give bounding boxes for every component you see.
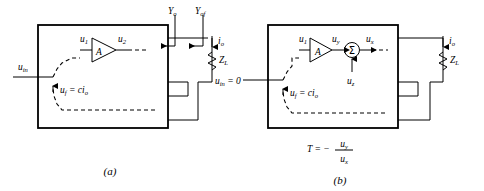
admittance-yof-label-a: Yof: [195, 6, 207, 17]
admittance-yo-label-a: Yo: [168, 6, 177, 17]
amplifier-gain-label-b: A: [314, 47, 321, 57]
panel-caption-b: (b): [334, 174, 347, 187]
feedback-label-a: uf = cio: [60, 85, 89, 96]
amp-input-label-a: u1: [80, 34, 88, 45]
panel-b: Σ uin = 0 u1 uy A ux uz uf = cio: [215, 25, 459, 187]
output-current-label-b: io: [449, 36, 456, 47]
load-impedance-label-a: ZL: [219, 55, 228, 66]
formula-denominator-b: ux: [340, 154, 348, 165]
summing-node-label-b: Σ: [349, 45, 355, 56]
formula-numerator-b: uy: [340, 139, 348, 150]
feedback-label-b: uf = cio: [290, 88, 319, 99]
amplifier-triangle-b: [310, 38, 332, 62]
forward-dashed-path-b: [283, 58, 299, 80]
circuit-diagram-svg: uin u1 u2 A uf = cio Yo Yof io ZL (a) Σ: [0, 0, 484, 191]
summer-inject-label-b: uz: [347, 76, 355, 87]
output-current-label-a: io: [218, 36, 225, 47]
panel-a: uin u1 u2 A uf = cio Yo Yof io ZL (a): [13, 6, 228, 178]
amplifier-block-a: [38, 25, 168, 128]
formula-lhs-b: T = −: [307, 144, 330, 154]
input-label-b: uin = 0: [215, 76, 241, 87]
figure-container: uin u1 u2 A uf = cio Yo Yof io ZL (a) Σ: [0, 0, 484, 191]
amp-output-label-a: u2: [118, 34, 127, 45]
amp-output-label-b: uy: [332, 34, 340, 45]
forward-dashed-path-a: [53, 58, 80, 77]
amplifier-gain-label-a: A: [95, 47, 102, 57]
transfer-formula-b: T = − uy ux: [307, 139, 353, 165]
load-impedance-label-b: ZL: [450, 55, 459, 66]
amp-input-label-b: u1: [299, 34, 307, 45]
summer-output-label-b: ux: [366, 34, 374, 45]
input-label-a: uin: [18, 62, 29, 73]
panel-caption-a: (a): [104, 165, 117, 178]
